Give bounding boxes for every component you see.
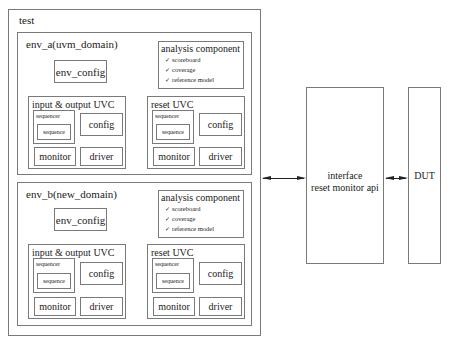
dut-label: DUT (414, 170, 435, 181)
env-a-analysis-component: analysis component ✓scoreboard ✓coverage… (158, 41, 244, 89)
env-b-io-driver: driver (80, 297, 123, 316)
analysis-item-reference-model: ✓reference model (165, 75, 214, 85)
analysis-item-reference-model: ✓reference model (165, 224, 214, 234)
env-b-reset-config: config (199, 262, 242, 285)
analysis-title: analysis component (161, 193, 240, 203)
monitor-label: monitor (158, 151, 190, 162)
uvc-title: input & output UVC (32, 248, 115, 258)
arrow-right-icon (297, 176, 306, 180)
driver-label: driver (90, 151, 114, 162)
sequence-label: sequence (43, 278, 65, 284)
monitor-label: monitor (39, 151, 71, 162)
monitor-label: monitor (39, 301, 71, 312)
sequencer-label: sequencer (36, 261, 60, 267)
analysis-item-coverage: ✓coverage (165, 65, 214, 75)
env-b-io-monitor: monitor (34, 297, 76, 316)
arrow-left-icon (262, 176, 271, 180)
env-b-io-sequence: sequence (37, 273, 71, 289)
env-config-label: env_config (56, 214, 105, 226)
env-a-io-monitor: monitor (34, 147, 76, 166)
env-b-reset-monitor: monitor (153, 297, 195, 316)
env-a-io-config: config (80, 113, 123, 136)
check-icon: ✓ (165, 66, 172, 75)
env-b-label: env_b(new_domain) (26, 189, 117, 200)
env-b-analysis-component: analysis component ✓scoreboard ✓coverage… (158, 190, 244, 238)
test-label: test (19, 15, 34, 26)
analysis-item-scoreboard: ✓scoreboard (165, 204, 214, 214)
env-a-label: env_a(uvm_domain) (26, 39, 118, 50)
interface-label: interface (307, 171, 383, 181)
check-icon: ✓ (165, 225, 172, 234)
check-icon: ✓ (165, 76, 172, 85)
uvc-title: reset UVC (151, 248, 194, 258)
config-label: config (208, 268, 234, 279)
check-icon: ✓ (165, 56, 172, 65)
check-icon: ✓ (165, 205, 172, 214)
sequence-label: sequence (162, 129, 184, 135)
interface-box: interface reset monitor api (306, 87, 384, 264)
env-config-label: env_config (56, 66, 105, 78)
config-label: config (208, 119, 234, 130)
env-a-env-config: env_config (54, 60, 107, 83)
analysis-item-scoreboard: ✓scoreboard (165, 55, 214, 65)
uvc-title: input & output UVC (32, 100, 115, 110)
sequence-label: sequence (162, 278, 184, 284)
driver-label: driver (209, 151, 233, 162)
driver-label: driver (209, 301, 233, 312)
env-a-reset-driver: driver (199, 147, 242, 166)
driver-label: driver (90, 301, 114, 312)
env-b-env-config: env_config (54, 208, 107, 231)
analysis-title: analysis component (161, 44, 240, 54)
arrow-right-icon (399, 176, 408, 180)
uvc-title: reset UVC (151, 100, 194, 110)
sequencer-label: sequencer (155, 261, 179, 267)
env-a-reset-config: config (199, 113, 242, 136)
monitor-label: monitor (158, 301, 190, 312)
env-b-io-config: config (80, 262, 123, 285)
check-icon: ✓ (165, 215, 172, 224)
arrow-left-icon (385, 176, 394, 180)
env-a-io-sequence: sequence (37, 124, 71, 140)
env-b-reset-driver: driver (199, 297, 242, 316)
sequence-label: sequence (43, 129, 65, 135)
sequencer-label: sequencer (36, 113, 60, 119)
config-label: config (89, 119, 115, 130)
interface-api-label: reset monitor api (307, 183, 383, 193)
env-a-reset-monitor: monitor (153, 147, 195, 166)
env-a-io-driver: driver (80, 147, 123, 166)
analysis-item-coverage: ✓coverage (165, 214, 214, 224)
env-a-reset-sequence: sequence (156, 124, 190, 140)
sequencer-label: sequencer (155, 113, 179, 119)
dut-box: DUT (408, 87, 441, 264)
config-label: config (89, 268, 115, 279)
env-b-reset-sequence: sequence (156, 273, 190, 289)
